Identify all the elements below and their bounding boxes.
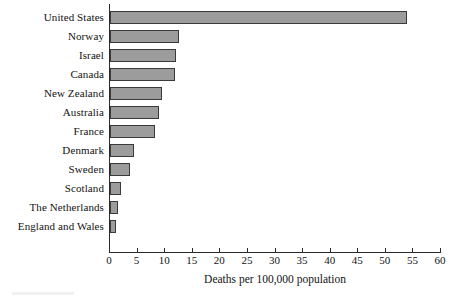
corner-artifact (12, 292, 74, 295)
tick-label-40: 40 (324, 255, 335, 266)
bar-england-and-wales (110, 220, 116, 233)
plot-area (109, 4, 441, 252)
value-axis-title: Deaths per 100,000 population (109, 273, 441, 286)
category-label-norway: Norway (0, 31, 104, 42)
bar-canada (110, 68, 175, 81)
tick-label-60: 60 (435, 255, 446, 266)
tick-mark-60 (440, 248, 441, 253)
bar-norway (110, 30, 179, 43)
tick-label-30: 30 (269, 255, 280, 266)
tick-label-15: 15 (186, 255, 197, 266)
category-label-united-states: United States (0, 12, 104, 23)
tick-mark-45 (357, 248, 358, 253)
tick-mark-30 (275, 248, 276, 253)
tick-mark-55 (412, 248, 413, 253)
bar-the-netherlands (110, 201, 118, 214)
category-label-scotland: Scotland (0, 183, 104, 194)
bar-scotland (110, 182, 121, 195)
bar-denmark (110, 144, 134, 157)
tick-mark-20 (219, 248, 220, 253)
tick-label-50: 50 (379, 255, 390, 266)
category-label-france: France (0, 126, 104, 137)
tick-label-0: 0 (106, 255, 112, 266)
tick-label-25: 25 (241, 255, 252, 266)
category-label-new-zealand: New Zealand (0, 88, 104, 99)
category-label-canada: Canada (0, 69, 104, 80)
category-label-sweden: Sweden (0, 164, 104, 175)
category-axis: United StatesNorwayIsraelCanadaNew Zeala… (0, 4, 104, 252)
category-label-england-and-wales: England and Wales (0, 221, 104, 232)
bar-sweden (110, 163, 130, 176)
tick-label-45: 45 (352, 255, 363, 266)
bar-chart-figure: United StatesNorwayIsraelCanadaNew Zeala… (0, 0, 466, 301)
tick-mark-5 (137, 248, 138, 253)
tick-mark-40 (330, 248, 331, 253)
bar-australia (110, 106, 159, 119)
tick-mark-35 (302, 248, 303, 253)
tick-mark-50 (385, 248, 386, 253)
category-label-israel: Israel (0, 50, 104, 61)
bar-new-zealand (110, 87, 162, 100)
tick-label-10: 10 (159, 255, 170, 266)
tick-mark-25 (247, 248, 248, 253)
tick-mark-0 (109, 248, 110, 253)
tick-mark-15 (192, 248, 193, 253)
tick-mark-10 (164, 248, 165, 253)
bar-israel (110, 49, 176, 62)
category-label-australia: Australia (0, 107, 104, 118)
bar-united-states (110, 11, 407, 24)
tick-label-55: 55 (407, 255, 418, 266)
tick-label-5: 5 (134, 255, 140, 266)
category-label-the-netherlands: The Netherlands (0, 202, 104, 213)
tick-label-35: 35 (297, 255, 308, 266)
tick-label-20: 20 (214, 255, 225, 266)
category-label-denmark: Denmark (0, 145, 104, 156)
bar-france (110, 125, 155, 138)
